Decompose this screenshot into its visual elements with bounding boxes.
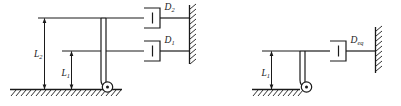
- pivot-joint-left: [102, 82, 112, 92]
- svg-text:L2: L2: [33, 49, 43, 60]
- svg-text:L1: L1: [61, 68, 71, 79]
- damper-equivalence-diagram: D2 D1 L2: [0, 0, 401, 106]
- diagram-canvas: D2 D1 L2: [0, 0, 401, 106]
- dimension-l1-right-label: L1: [261, 68, 271, 79]
- svg-text:D2: D2: [164, 2, 176, 13]
- ground-support-right: [252, 90, 303, 97]
- wall-hatching-left: [190, 4, 196, 64]
- dimension-l1-left-label: L1: [61, 68, 71, 79]
- right-panel: Deq L1: [252, 26, 382, 96]
- damper-d2-label: D2: [164, 2, 176, 13]
- wall-hatching-right: [376, 26, 382, 71]
- dimension-l2-label: L2: [33, 49, 43, 60]
- damper-deq-label-sub: eq: [357, 39, 364, 46]
- dimension-l1-left: [62, 51, 101, 89]
- damper-d2-label-sub: 2: [171, 6, 175, 13]
- damper-deq-label-main: D: [350, 35, 358, 45]
- dimension-l2-label-sub: 2: [39, 53, 43, 60]
- damper-d1-label-main: D: [164, 35, 172, 45]
- wall-support-right: [376, 26, 383, 73]
- svg-text:D1: D1: [164, 35, 175, 46]
- damper-deq-label: Deq: [350, 35, 365, 46]
- rigid-lever-right: [300, 51, 305, 87]
- ground-hatching-right: [253, 90, 303, 96]
- damper-d2-label-main: D: [164, 2, 172, 12]
- dimension-l1-right: [262, 51, 300, 89]
- damper-d1-label-sub: 1: [171, 39, 174, 46]
- left-panel: D2 D1 L2: [10, 2, 196, 97]
- dimension-l1-left-label-sub: 1: [67, 72, 70, 79]
- damper-d1-label: D1: [164, 35, 175, 46]
- rigid-lever-left: [101, 18, 106, 87]
- pivot-joint-right: [301, 82, 311, 92]
- svg-text:Deq: Deq: [350, 35, 365, 46]
- dimension-l1-right-label-sub: 1: [267, 72, 270, 79]
- wall-support-left: [190, 4, 197, 64]
- svg-text:L1: L1: [261, 68, 271, 79]
